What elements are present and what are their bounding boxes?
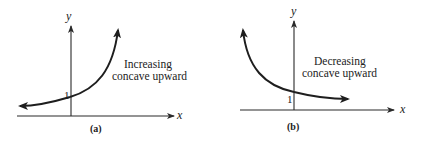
y-axis-label: y: [65, 9, 72, 23]
figure: x y 1 Increasing concave upward (a) x y …: [0, 0, 423, 144]
caption: (b): [287, 121, 299, 133]
growth-curve-right: [70, 30, 118, 97]
decay-curve-right: [294, 92, 348, 99]
annotation-line2: concave upward: [112, 70, 187, 83]
panel-a: x y 1 Increasing concave upward (a): [17, 9, 187, 135]
x-axis-label: x: [176, 108, 183, 122]
caption: (a): [90, 123, 102, 135]
annotation-line2: concave upward: [302, 67, 377, 80]
y-axis-label: y: [290, 4, 297, 18]
intercept-label: 1: [287, 93, 293, 105]
decay-curve-left: [243, 30, 294, 92]
panel-b: x y 1 Decreasing concave upward (b): [240, 4, 406, 133]
growth-curve: [20, 97, 70, 106]
x-axis-label: x: [399, 102, 406, 116]
